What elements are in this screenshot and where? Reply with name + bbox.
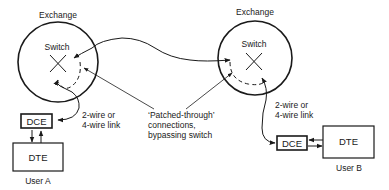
left-switch-cross-icon — [50, 55, 66, 72]
left-patched-connection — [58, 62, 80, 88]
right-link-label-2: 4-wire link — [275, 110, 314, 120]
left-exchange: Exchange Switch 2-wire or 4-wire link DC… — [13, 10, 121, 186]
annotation-line-3: bypassing switch — [148, 130, 213, 140]
annotation-pointer-left — [84, 68, 154, 109]
right-exchange: Exchange Switch 2-wire or 4-wire link DC… — [218, 7, 374, 173]
right-link-label-1: 2-wire or — [275, 100, 308, 110]
user-b-label: User B — [336, 163, 362, 173]
right-switch-cross-icon — [246, 53, 262, 70]
left-switch-label: Switch — [44, 42, 69, 52]
network-diagram: Exchange Switch 2-wire or 4-wire link DC… — [0, 0, 389, 190]
right-switch-label: Switch — [241, 39, 266, 49]
left-exchange-title: Exchange — [39, 10, 77, 20]
right-dte-label: DTE — [339, 136, 358, 147]
annotation-line-1: ‘Patched-through’ — [148, 110, 215, 120]
right-exchange-title: Exchange — [236, 7, 274, 17]
left-dce-label: DCE — [26, 116, 46, 127]
right-exchange-circle — [218, 21, 292, 95]
annotation-pointer-right — [186, 73, 232, 109]
right-patched-connection — [230, 62, 264, 85]
left-link-label-1: 2-wire or — [82, 110, 115, 120]
left-dte-label: DTE — [29, 152, 48, 163]
right-access-link — [262, 78, 275, 143]
left-exchange-circle — [18, 22, 98, 102]
right-dce-label: DCE — [282, 138, 302, 149]
user-a-label: User A — [25, 176, 51, 186]
left-link-label-2: 4-wire link — [82, 120, 121, 130]
annotation-line-2: connections, — [148, 120, 196, 130]
